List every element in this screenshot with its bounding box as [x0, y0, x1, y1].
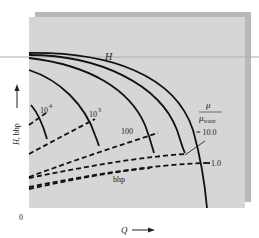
origin-label: 0: [19, 213, 23, 222]
label-bhp: bhp: [113, 175, 125, 184]
label-10000-base: 10: [40, 106, 48, 115]
ratio-numerator: μ: [205, 100, 211, 110]
y-axis-arrow-icon: [15, 84, 20, 108]
label-100: 100: [121, 127, 133, 136]
x-axis-label: Q: [121, 225, 128, 235]
label-1: 1.0: [211, 159, 221, 168]
pump-viscosity-diagram: H bhp 10 4 10 3 100 μ μwater = 10.0 1.0 …: [0, 0, 259, 238]
x-axis-arrow-icon: [132, 228, 155, 233]
y-axis-label: H, bhp: [12, 123, 21, 146]
label-head: H: [104, 51, 113, 62]
label-10: = 10.0: [196, 128, 217, 137]
label-1000-exp: 3: [98, 107, 101, 113]
plot-panel: [29, 17, 245, 208]
label-10000-exp: 4: [49, 103, 52, 109]
label-1000-base: 10: [89, 110, 97, 119]
panel-shadow-right: [245, 12, 251, 202]
y-axis-label-group: H, bhp: [12, 123, 21, 146]
